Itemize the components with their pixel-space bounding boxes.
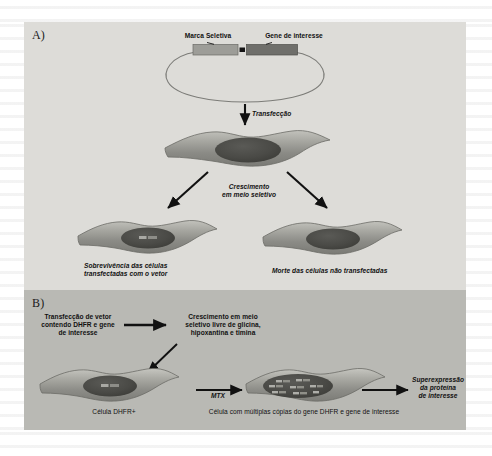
cell-nucleus — [215, 138, 281, 163]
integrated-dhfr-gene — [101, 384, 109, 387]
panel-a-label: A) — [32, 28, 45, 43]
gene-label-leader — [266, 43, 272, 45]
selective-growth-step-label: Crescimento em meio seletivo — [210, 183, 288, 199]
cell-surviving — [78, 220, 217, 253]
panelb-selective-medium-label: Crescimento em meio seletivo livre de gl… — [172, 313, 274, 338]
cell-transfected — [165, 131, 330, 167]
cell-non-transfected — [263, 221, 402, 254]
cell-dhfr-positive — [40, 368, 179, 401]
panelb-selection-arrow — [148, 344, 177, 372]
panelb-transfection-label: Transfecção de vetor contendo DHFR e gen… — [32, 313, 124, 338]
mtx-label: MTX — [203, 392, 233, 400]
plasmid-backbone — [166, 52, 324, 102]
panel-b-label: B) — [32, 296, 44, 311]
growth-arrow-left — [168, 172, 208, 208]
plasmid-marker-label: Marca Seletiva — [168, 32, 248, 40]
integrated-marker-gene — [139, 236, 147, 239]
dhfr-positive-cell-caption: Célula DHFR+ — [74, 408, 154, 416]
cell-amplified-dhfr — [246, 368, 385, 401]
growth-arrow-right — [287, 172, 327, 208]
overexpression-label: Superexpressão da proteína de interesse — [410, 376, 466, 401]
transfection-step-label: Transfecção — [252, 110, 322, 118]
dead-cells-caption: Morte das células não transfectadas — [272, 267, 422, 275]
plasmid-diagram — [166, 43, 324, 103]
plasmid-gene-label: Gene de interesse — [248, 32, 340, 40]
integrated-gene-of-interest — [148, 236, 157, 239]
amplified-cell-caption: Célula com múltiplas cópias do gene DHFR… — [196, 408, 412, 416]
gene-linker-tick — [240, 48, 246, 53]
selectable-marker-gene-box — [193, 45, 238, 56]
figure-canvas: A) B) Marca Seletiva Gene de interesse T… — [0, 0, 492, 456]
cell-nucleus — [306, 229, 360, 250]
surviving-cells-caption: Sobrevivência das células transfectadas … — [84, 262, 204, 278]
integrated-gene-of-interest — [110, 384, 119, 387]
gene-of-interest-box — [247, 45, 298, 56]
marker-label-leader — [207, 43, 214, 45]
